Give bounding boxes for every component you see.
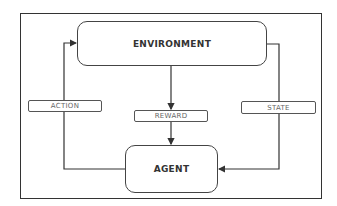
- state-text: STATE: [267, 104, 290, 112]
- state-edge-label: STATE: [241, 101, 316, 114]
- action-edge-label: ACTION: [28, 100, 102, 112]
- agent-label: AGENT: [154, 164, 190, 174]
- environment-label: ENVIRONMENT: [133, 39, 211, 49]
- action-text: ACTION: [51, 102, 79, 110]
- environment-node: ENVIRONMENT: [77, 21, 267, 66]
- agent-node: AGENT: [125, 145, 218, 193]
- reward-text: REWARD: [155, 112, 188, 120]
- reward-edge-label: REWARD: [134, 110, 208, 122]
